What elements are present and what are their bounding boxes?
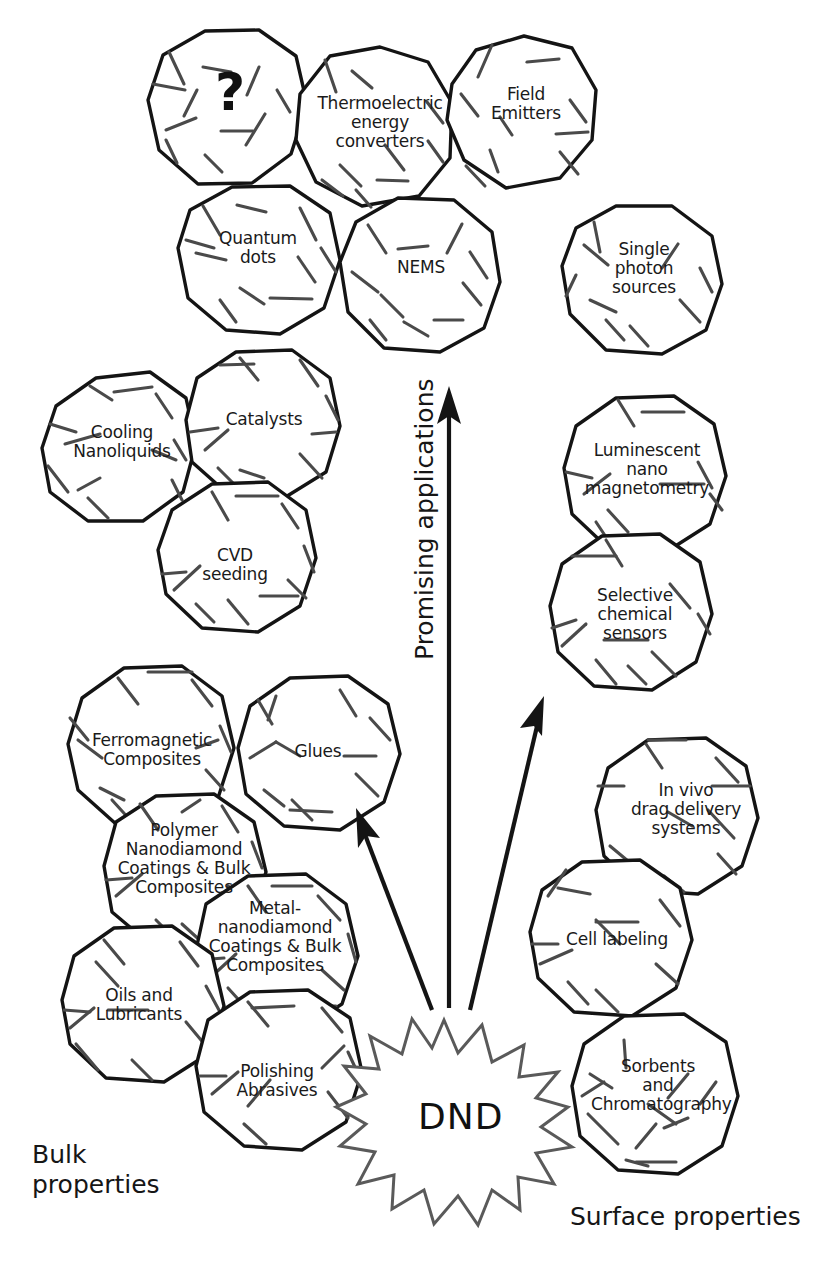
node-label-ferromagnetic: Ferromagnetic Composites xyxy=(79,731,225,769)
surface-properties-label: Surface properties xyxy=(570,1202,801,1232)
node-label-single-photon: Single photon sources xyxy=(592,240,696,297)
node-label-cooling-nanoliquids: Cooling Nanoliquids xyxy=(58,423,186,461)
node-label-polymer-nd: Polymer Nanodiamond Coatings & Bulk Comp… xyxy=(103,821,265,897)
node-label-luminescent: Luminescent nano magnetometry xyxy=(580,441,714,498)
promising-applications-label: Promising applications xyxy=(410,378,439,660)
node-label-cvd-seeding: CVD seeding xyxy=(188,546,282,584)
node-label-thermoelectric: Thermoelectric energy converters xyxy=(317,94,443,151)
node-label-oils-lubricants: Oils and Lubricants xyxy=(84,986,194,1024)
node-label-polishing: Polishing Abrasives xyxy=(218,1062,336,1100)
node-label-unknown: ? xyxy=(215,62,245,122)
node-label-catalysts: Catalysts xyxy=(214,410,314,429)
node-label-sorbents: Sorbents and Chromatography xyxy=(591,1057,725,1114)
dnd-center-label: DND xyxy=(418,1096,503,1137)
arrow-bulk xyxy=(356,808,432,1010)
node-label-metal-nd: Metal- nanodiamond Coatings & Bulk Compo… xyxy=(192,899,358,975)
node-label-drug-delivery: In vivo drag delivery systems xyxy=(626,781,746,838)
node-label-nems: NEMS xyxy=(382,258,460,277)
node-label-glues: Glues xyxy=(278,742,358,761)
arrow-surface xyxy=(470,696,544,1010)
node-label-field-emitters: Field Emitters xyxy=(474,85,578,123)
node-label-chem-sensors: Selective chemical sensors xyxy=(582,586,688,643)
diagram-canvas: .gon { fill:#ffffff; stroke:#141414; str… xyxy=(0,0,832,1261)
bulk-properties-label: Bulk properties xyxy=(32,1140,160,1199)
node-label-quantum-dots: Quantum dots xyxy=(202,229,314,267)
node-label-cell-labeling: Cell labeling xyxy=(556,930,678,949)
arrow-promising xyxy=(437,386,461,1008)
